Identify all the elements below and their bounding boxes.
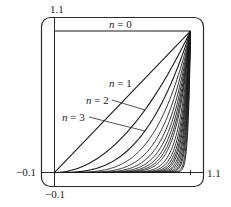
label-n0: n = 0 [109,18,132,30]
power-function-chart: 1.1 −0.1 −0.1 1.1 n = 0 n = 1 n = 2 n = … [0,0,231,207]
leader-line-n3 [89,117,145,131]
y-min-label: −0.1 [16,166,36,178]
x-min-label: −0.1 [45,188,65,200]
label-n3: n = 3 [62,111,85,123]
curves-group [55,31,191,173]
x-max-label: 1.1 [207,167,221,179]
label-n1: n = 1 [109,77,132,89]
y-max-label: 1.1 [50,3,64,15]
label-n2: n = 2 [86,94,109,106]
leader-line-n2 [112,100,145,110]
curve-n1 [55,31,191,173]
